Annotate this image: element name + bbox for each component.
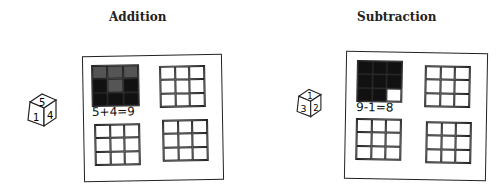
subtraction-equation: 9-1=8 (356, 100, 394, 115)
subtraction-title: Subtraction (357, 10, 437, 24)
svg-text:1: 1 (33, 112, 39, 123)
addition-equation: 5+4=9 (92, 104, 135, 119)
addition-grid-3 (94, 123, 141, 166)
svg-text:4: 4 (47, 110, 53, 121)
addition-title: Addition (109, 10, 166, 24)
svg-text:3: 3 (301, 103, 307, 114)
die-icon-addition: 5 1 4 (22, 90, 62, 130)
svg-text:5: 5 (39, 97, 45, 108)
subtraction-grid-1 (356, 60, 403, 103)
addition-grid-2 (159, 65, 206, 108)
subtraction-grid-3 (355, 118, 402, 161)
subtraction-grid-2 (424, 65, 471, 108)
addition-grid-4 (162, 119, 209, 162)
svg-text:1: 1 (307, 91, 312, 101)
svg-text:2: 2 (313, 103, 318, 113)
die-icon-subtraction: 1 3 2 (292, 86, 326, 120)
subtraction-board: 9-1=8 (344, 51, 488, 181)
addition-grid-1 (91, 64, 140, 107)
subtraction-grid-4 (425, 121, 472, 164)
addition-board: 5+4=9 (82, 54, 224, 182)
